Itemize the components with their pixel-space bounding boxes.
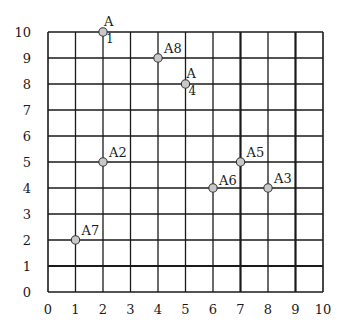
y-tick-label: 8 xyxy=(23,77,31,92)
y-tick-label: 0 xyxy=(23,285,31,300)
data-point-a1: A1 xyxy=(99,14,114,46)
x-tick-label: 0 xyxy=(44,302,52,317)
y-tick-label: 9 xyxy=(23,51,31,66)
point-label: A6 xyxy=(218,173,237,188)
x-tick-label: 7 xyxy=(236,302,244,317)
x-axis-tick-labels: 012345678910 xyxy=(44,302,331,317)
x-tick-label: 2 xyxy=(99,302,107,317)
point-marker xyxy=(209,184,217,192)
y-tick-label: 4 xyxy=(23,181,31,196)
point-label: A5 xyxy=(246,145,265,160)
point-label-subscript: 4 xyxy=(189,84,197,98)
x-tick-label: 3 xyxy=(126,302,134,317)
y-tick-label: 5 xyxy=(23,155,31,170)
data-point-a4: A4 xyxy=(181,66,196,98)
point-label: A xyxy=(103,14,114,29)
point-label: A3 xyxy=(273,171,292,186)
x-tick-label: 6 xyxy=(209,302,217,317)
point-marker xyxy=(99,158,107,166)
point-marker xyxy=(71,236,79,244)
y-tick-label: 2 xyxy=(23,233,31,248)
x-tick-label: 10 xyxy=(315,302,332,317)
point-marker xyxy=(154,54,162,62)
y-tick-label: 6 xyxy=(23,129,31,144)
y-tick-label: 7 xyxy=(23,103,31,118)
grid-lines xyxy=(48,32,323,292)
x-tick-label: 8 xyxy=(264,302,272,317)
point-label: A xyxy=(186,66,197,81)
x-tick-label: 1 xyxy=(71,302,79,317)
point-marker xyxy=(236,158,244,166)
x-tick-label: 5 xyxy=(181,302,189,317)
x-tick-label: 4 xyxy=(154,302,162,317)
point-marker xyxy=(264,184,272,192)
y-tick-label: 1 xyxy=(23,259,31,274)
data-points: A1A2A3A4A5A6A7A8 xyxy=(71,14,291,244)
y-tick-label: 3 xyxy=(23,207,31,222)
x-tick-label: 9 xyxy=(291,302,299,317)
y-axis-tick-labels: 012345678910 xyxy=(14,25,31,300)
point-label: A7 xyxy=(81,223,100,238)
point-label: A8 xyxy=(163,41,182,56)
point-label-subscript: 1 xyxy=(106,32,114,46)
y-tick-label: 10 xyxy=(14,25,31,40)
scatter-chart: 012345678910 012345678910 A1A2A3A4A5A6A7… xyxy=(0,0,348,330)
point-label: A2 xyxy=(108,145,127,160)
